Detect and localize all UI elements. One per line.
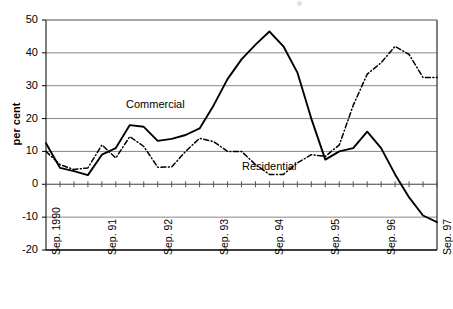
x-tick-label: Sep. 96	[385, 219, 397, 255]
x-tick-label: Sep. 93	[218, 219, 230, 255]
series-label-residential: Residential	[242, 160, 296, 172]
x-tick-label: Sep. 94	[273, 219, 285, 255]
y-tick-label: -10	[4, 210, 38, 222]
x-tick-label: Sep. 1990	[50, 207, 62, 255]
y-tick-label: 0	[4, 177, 38, 189]
gridlines-group	[42, 20, 437, 250]
y-tick-label: 50	[4, 13, 38, 25]
y-tick-label: 40	[4, 46, 38, 58]
y-tick-label: 20	[4, 112, 38, 124]
series-label-commercial: Commercial	[126, 98, 185, 110]
series-line-commercial	[46, 32, 437, 223]
x-tick-label: Sep. 92	[162, 219, 174, 255]
data-series-group	[46, 32, 437, 223]
x-tick-label: Sep. 97	[441, 219, 453, 255]
y-tick-label: 30	[4, 79, 38, 91]
series-line-residential	[46, 46, 437, 174]
y-tick-label: 10	[4, 144, 38, 156]
y-tick-label: -20	[4, 243, 38, 255]
x-tick-marks-group	[46, 181, 437, 187]
x-tick-label: Sep. 95	[329, 219, 341, 255]
axes-group	[46, 20, 437, 250]
x-tick-label: Sep. 91	[106, 219, 118, 255]
